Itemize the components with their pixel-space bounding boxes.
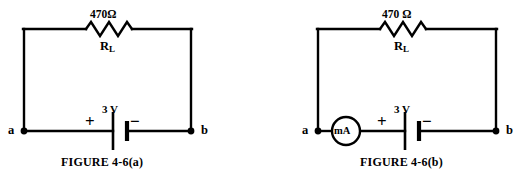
node-label-b: b <box>201 124 208 137</box>
node-dot-a <box>315 128 322 135</box>
source-value-label: 3 V <box>394 104 410 115</box>
resistor-name-label: RL <box>100 40 115 54</box>
resistor-name-label: RL <box>394 40 409 54</box>
node-dot-a <box>21 128 28 135</box>
figure-caption-a: FIGURE 4-6(a) <box>61 155 143 170</box>
resistor-name-text: R <box>394 39 403 53</box>
node-label-b: b <box>506 124 513 137</box>
figure-4-6-b: 470 Ω RL 3 V + − mA a b FIGURE 4-6(b) <box>256 0 513 179</box>
polarity-negative-label: − <box>130 113 140 130</box>
figure-4-6-a: 470Ω RL 3 V + − a b FIGURE 4-6(a) <box>0 0 256 179</box>
resistor-value-label: 470 Ω <box>382 9 411 21</box>
polarity-positive-label: + <box>377 113 387 130</box>
resistor-name-subscript: L <box>109 44 115 54</box>
resistor-zigzag-symbol <box>380 22 426 36</box>
figure-caption-b: FIGURE 4-6(b) <box>360 155 443 170</box>
resistor-name-subscript: L <box>403 44 409 54</box>
battery-symbol <box>405 112 419 150</box>
circuit-schematic-b <box>256 0 513 179</box>
polarity-positive-label: + <box>85 113 95 130</box>
circuit-schematic-a <box>0 0 256 179</box>
node-label-a: a <box>8 124 14 137</box>
battery-symbol <box>113 112 127 150</box>
resistor-value-label: 470Ω <box>90 9 116 21</box>
source-value-label: 3 V <box>102 104 118 115</box>
resistor-zigzag-symbol <box>86 22 132 36</box>
resistor-name-text: R <box>100 39 109 53</box>
node-dot-b <box>188 128 195 135</box>
node-label-a: a <box>302 124 308 137</box>
polarity-negative-label: − <box>422 113 432 130</box>
node-dot-b <box>493 128 500 135</box>
ammeter-label: mA <box>334 126 350 137</box>
